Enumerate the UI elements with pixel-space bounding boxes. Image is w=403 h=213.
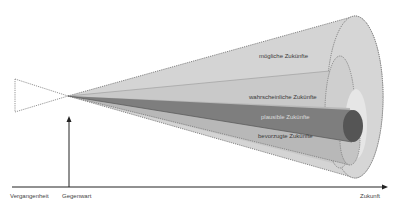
past-cone — [15, 79, 68, 112]
label-possible-futures: mögliche Zukünfte — [259, 53, 308, 59]
plausible-futures-end — [343, 110, 363, 142]
label-present: Gegenwart — [62, 193, 91, 199]
label-probable-futures: wahrscheinliche Zukünfte — [249, 94, 317, 100]
label-plausible-futures: plausible Zukünfte — [261, 114, 310, 120]
label-past: Vergangenheit — [10, 193, 49, 199]
time-axis-arrowhead — [382, 185, 388, 190]
label-future: Zukunft — [360, 193, 380, 199]
futures-cone-diagram — [0, 0, 403, 213]
present-marker-arrowhead — [67, 116, 72, 122]
label-preferable-futures: bevorzugte Zukünfte — [258, 133, 313, 139]
